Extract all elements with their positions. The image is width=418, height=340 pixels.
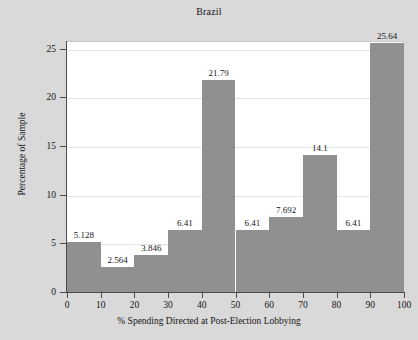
- y-axis-line: [66, 41, 67, 293]
- bar: [202, 80, 236, 292]
- bar: [134, 255, 168, 292]
- y-axis-title: Percentage of Sample: [17, 74, 27, 234]
- bar-value-label: 7.692: [276, 205, 296, 215]
- y-axis-tick-label: 5: [30, 238, 56, 248]
- x-axis-tick-label: 30: [163, 300, 173, 310]
- x-axis-tick: [101, 293, 102, 298]
- x-axis-tick: [303, 293, 304, 298]
- y-axis-tick-label: 20: [30, 92, 56, 102]
- y-axis-tick-label: 10: [30, 190, 56, 200]
- bar-value-label: 6.41: [177, 218, 193, 228]
- y-axis-tick: [60, 49, 66, 50]
- y-axis-tick-label: 15: [30, 141, 56, 151]
- bar-value-label: 6.41: [346, 218, 362, 228]
- bar: [337, 230, 371, 292]
- x-axis-tick: [168, 293, 169, 298]
- y-axis-tick: [60, 292, 66, 293]
- x-axis-tick: [67, 293, 68, 298]
- bar-value-label: 2.564: [107, 255, 127, 265]
- bar-value-label: 14.1: [312, 143, 328, 153]
- y-axis-tick-label: 25: [30, 44, 56, 54]
- x-axis-tick-label: 40: [197, 300, 207, 310]
- chart-title: Brazil: [0, 6, 418, 17]
- y-axis-tick: [60, 97, 66, 98]
- bar-value-label: 3.846: [141, 243, 161, 253]
- x-axis-tick-label: 80: [332, 300, 342, 310]
- bar: [303, 155, 337, 292]
- bar-value-label: 5.128: [74, 230, 94, 240]
- x-axis-tick: [269, 293, 270, 298]
- x-axis-tick-label: 60: [264, 300, 274, 310]
- chart-figure: Brazil 0510152025 0102030405060708090100…: [0, 0, 418, 340]
- y-axis-tick: [60, 195, 66, 196]
- y-axis-tick: [60, 146, 66, 147]
- bar-value-label: 6.41: [244, 218, 260, 228]
- x-axis-tick: [370, 293, 371, 298]
- bar: [67, 242, 101, 292]
- x-axis-title: % Spending Directed at Post-Election Lob…: [0, 316, 418, 326]
- x-axis-tick-label: 70: [298, 300, 308, 310]
- y-axis-tick: [60, 243, 66, 244]
- x-axis-tick-label: 0: [65, 300, 70, 310]
- x-axis-tick: [134, 293, 135, 298]
- bar-value-label: 25.64: [377, 31, 397, 41]
- bar: [370, 43, 404, 292]
- x-axis-tick-label: 100: [397, 300, 411, 310]
- bar: [269, 217, 303, 292]
- x-axis-tick: [404, 293, 405, 298]
- bar: [168, 230, 202, 292]
- x-axis-tick: [202, 293, 203, 298]
- x-axis-tick-label: 10: [96, 300, 106, 310]
- x-axis-tick-label: 90: [366, 300, 376, 310]
- bar-value-label: 21.79: [209, 68, 229, 78]
- bar: [236, 230, 270, 292]
- y-axis-tick-label: 0: [30, 287, 56, 297]
- x-axis-tick-label: 20: [130, 300, 140, 310]
- x-axis-tick: [337, 293, 338, 298]
- x-axis-tick-label: 50: [231, 300, 241, 310]
- x-axis-tick: [236, 293, 237, 298]
- bar: [101, 267, 135, 292]
